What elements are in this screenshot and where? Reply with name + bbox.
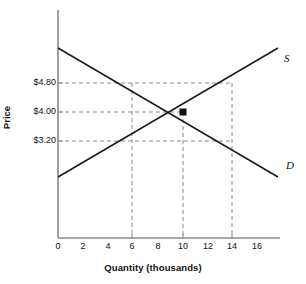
x-axis-title: Quantity (thousands) [0, 262, 306, 273]
vertical-guide-lines [132, 83, 232, 238]
x-tick-label-8: 8 [146, 241, 170, 251]
supply-curve-label: S [284, 52, 290, 64]
y-axis-title: Price [1, 98, 12, 138]
x-tick-label-10: 10 [171, 241, 195, 251]
x-tick-label-14: 14 [220, 241, 244, 251]
x-tick-label-16: 16 [245, 241, 269, 251]
x-tick-label-2: 2 [71, 241, 95, 251]
x-tick-label-12: 12 [196, 241, 220, 251]
horizontal-guide-lines [58, 83, 232, 141]
y-tick-label-4-80: $4.80 [0, 77, 56, 87]
x-tick-label-4: 4 [96, 241, 120, 251]
x-tick-label-6: 6 [120, 241, 144, 251]
equilibrium-point-marker [180, 109, 187, 116]
supply-demand-chart: $4.80 $4.00 $3.20 0 2 4 6 8 10 12 14 16 … [0, 0, 306, 284]
x-tick-label-0: 0 [46, 241, 70, 251]
axes-group [58, 10, 280, 238]
demand-curve-label: D [286, 159, 294, 171]
